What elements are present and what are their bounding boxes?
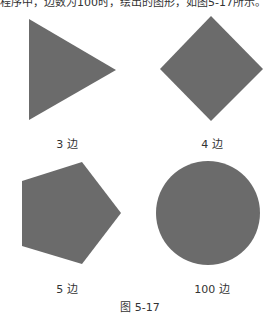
label-3-sides: 3 边 <box>56 135 78 151</box>
polygon-figure <box>0 0 274 318</box>
figure-caption: 图 5-17 <box>120 298 159 314</box>
square-shape <box>160 16 263 121</box>
triangle-shape <box>29 19 116 120</box>
hundred-gon-shape <box>156 161 260 265</box>
pentagon-shape <box>22 162 121 264</box>
label-100-sides: 100 边 <box>194 280 230 296</box>
label-5-sides: 5 边 <box>56 280 78 296</box>
label-4-sides: 4 边 <box>201 135 223 151</box>
